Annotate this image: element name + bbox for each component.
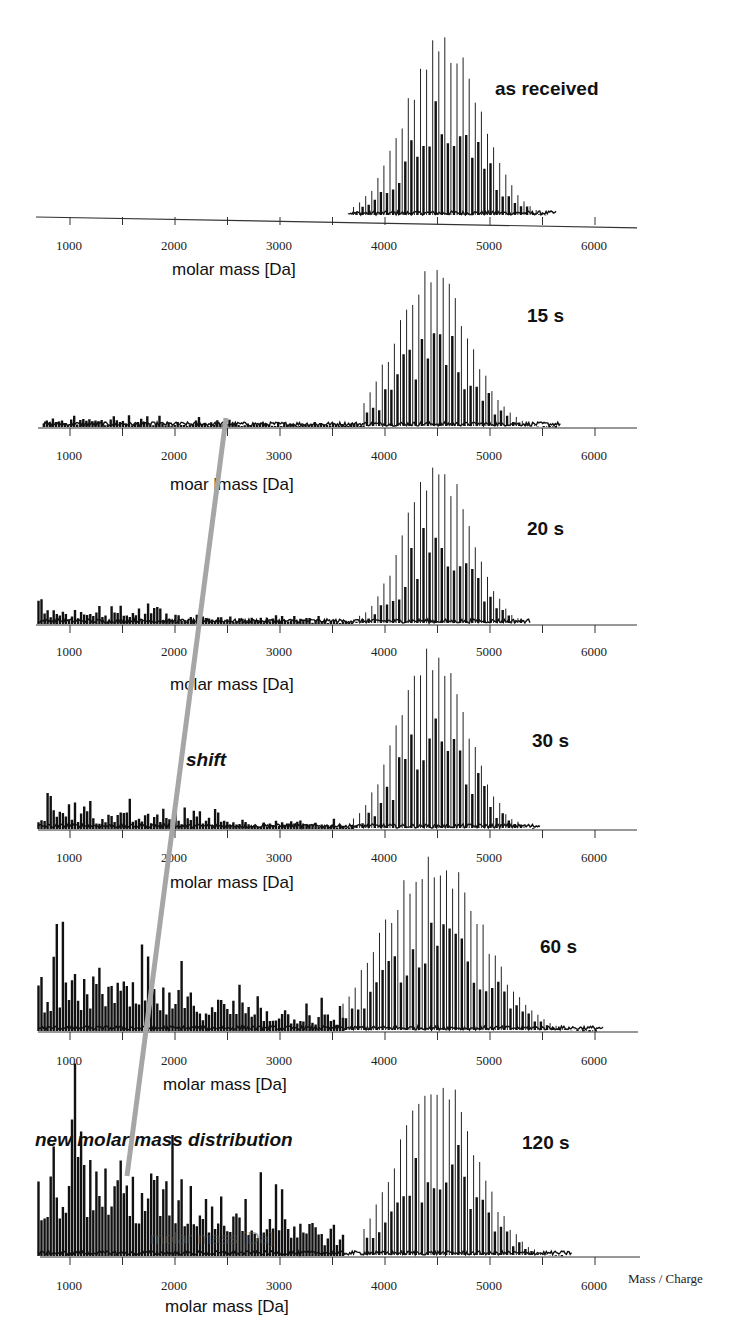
- shift-annotation: shift: [186, 749, 227, 770]
- spectrum-trace-dense: [44, 333, 556, 427]
- x-tick-label: 1000: [56, 448, 82, 463]
- x-tick-label: 3000: [266, 1278, 292, 1293]
- x-tick-label: 3000: [266, 850, 292, 865]
- spectrum-trace-dense: [39, 718, 534, 829]
- spectrum-panel-60-s: 100020003000400050006000molar mass [Da]6…: [38, 857, 638, 1094]
- x-axis-title: molar mass [Da]: [170, 873, 294, 892]
- x-tick-label: 4000: [371, 850, 397, 865]
- spectrum-panel-15-s: 100020003000400050006000moar lmass [Da]1…: [38, 270, 637, 494]
- spectrum-panel-120-s: 100020003000400050006000molar mass [Da]1…: [39, 1063, 641, 1316]
- x-tick-label: 5000: [476, 644, 502, 659]
- x-tick-label: 5000: [476, 448, 502, 463]
- x-tick-label: 5000: [476, 1278, 502, 1293]
- x-tick-label: 2000: [161, 238, 187, 253]
- ghost-axis-title: molar mass [Da]: [150, 1229, 274, 1248]
- stacked-mass-spectra-figure: 100020003000400050006000molar mass [Da]a…: [0, 0, 745, 1338]
- x-tick-label: 2000: [161, 644, 187, 659]
- spectrum-trace-dense: [39, 528, 522, 624]
- x-tick-label: 6000: [581, 644, 607, 659]
- x-tick-label: 4000: [371, 1053, 397, 1068]
- x-tick-label: 2000: [161, 448, 187, 463]
- x-tick-label: 6000: [581, 1053, 607, 1068]
- x-tick-label: 5000: [476, 1053, 502, 1068]
- x-tick-label: 6000: [581, 1278, 607, 1293]
- spectrum-trace-dense: [39, 922, 596, 1032]
- x-tick-label: 1000: [56, 850, 82, 865]
- new-distribution-annotation: new molar mass distribution: [35, 1129, 293, 1150]
- x-tick-label: 3000: [266, 238, 292, 253]
- x-tick-label: 2000: [161, 850, 187, 865]
- spectrum-trace-dense: [39, 1063, 562, 1256]
- panel-time-label: 20 s: [527, 518, 564, 539]
- x-tick-label: 5000: [476, 850, 502, 865]
- x-tick-label: 2000: [161, 1278, 187, 1293]
- panel-time-label: 30 s: [532, 730, 569, 751]
- x-tick-label: 1000: [56, 644, 82, 659]
- x-tick-label: 4000: [371, 238, 397, 253]
- x-tick-label: 3000: [266, 644, 292, 659]
- spectrum-trace-peaks: [364, 1088, 559, 1256]
- x-axis-line: [36, 217, 637, 228]
- x-tick-label: 1000: [56, 238, 82, 253]
- spectrum-panel-as-received: 100020003000400050006000molar mass [Da]a…: [36, 37, 637, 279]
- panel-time-label: 60 s: [540, 936, 577, 957]
- x-tick-label: 4000: [371, 448, 397, 463]
- x-tick-label: 2000: [161, 1053, 187, 1068]
- x-tick-label: 4000: [371, 644, 397, 659]
- x-tick-label: 6000: [581, 448, 607, 463]
- x-tick-label: 4000: [371, 1278, 397, 1293]
- spectra-panels: 100020003000400050006000molar mass [Da]a…: [36, 37, 640, 1316]
- baseline-trace: [348, 211, 556, 215]
- spectrum-panel-20-s: 100020003000400050006000molar mass [Da]2…: [36, 468, 637, 694]
- x-tick-label: 6000: [581, 850, 607, 865]
- panel-time-label: 15 s: [527, 305, 564, 326]
- x-axis-title: moar lmass [Da]: [170, 475, 294, 494]
- x-tick-label: 3000: [266, 1053, 292, 1068]
- x-tick-label: 1000: [56, 1278, 82, 1293]
- x-tick-label: 5000: [476, 238, 502, 253]
- panel-time-label: as received: [495, 78, 599, 99]
- x-axis-title: molar mass [Da]: [165, 1297, 289, 1316]
- x-axis-title: molar mass [Da]: [172, 260, 296, 279]
- spectrum-panel-30-s: 100020003000400050006000molar mass [Da]3…: [38, 649, 637, 892]
- panel-time-label: 120 s: [522, 1132, 570, 1153]
- mass-charge-label: Mass / Charge: [628, 1271, 703, 1286]
- x-axis-title: molar mass [Da]: [163, 1075, 287, 1094]
- x-tick-label: 3000: [266, 448, 292, 463]
- x-tick-label: 1000: [56, 1053, 82, 1068]
- x-tick-label: 6000: [581, 238, 607, 253]
